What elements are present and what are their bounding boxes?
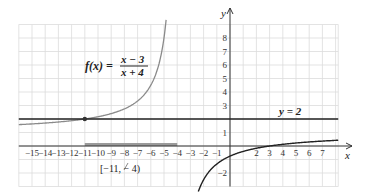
svg-text:7: 7 bbox=[223, 47, 228, 57]
svg-text:−5: −5 bbox=[159, 148, 169, 158]
svg-text:−3: −3 bbox=[186, 148, 196, 158]
svg-text:−12: −12 bbox=[65, 148, 79, 158]
svg-text:−8: −8 bbox=[120, 148, 130, 158]
svg-text:3: 3 bbox=[223, 101, 228, 111]
function-label: f(x) = x − 3 x + 4 bbox=[85, 53, 148, 78]
svg-text:−4: −4 bbox=[172, 148, 182, 158]
svg-text:−1: −1 bbox=[212, 148, 222, 158]
intersection-point bbox=[83, 117, 87, 121]
x-axis-label: x bbox=[344, 149, 350, 161]
svg-text:2: 2 bbox=[254, 148, 259, 158]
svg-text:−10: −10 bbox=[91, 148, 106, 158]
svg-text:−2: −2 bbox=[217, 168, 227, 178]
svg-text:−9: −9 bbox=[106, 148, 116, 158]
svg-text:−7: −7 bbox=[133, 148, 143, 158]
function-denominator: x + 4 bbox=[120, 66, 144, 78]
svg-text:−2: −2 bbox=[199, 148, 209, 158]
svg-text:6: 6 bbox=[307, 148, 312, 158]
interval-label: [−11, − 4) bbox=[100, 163, 140, 175]
svg-text:6: 6 bbox=[223, 60, 228, 70]
svg-text:7: 7 bbox=[320, 148, 325, 158]
svg-text:1: 1 bbox=[223, 128, 228, 138]
svg-text:8: 8 bbox=[223, 33, 228, 43]
function-graph: −15−14−13−12−11−10−9−8−7−6−5−4−3−2−12345… bbox=[0, 0, 373, 196]
svg-text:4: 4 bbox=[281, 148, 286, 158]
svg-text:−11: −11 bbox=[78, 148, 92, 158]
function-lhs: f(x) = bbox=[85, 59, 113, 73]
svg-text:5: 5 bbox=[294, 148, 299, 158]
function-numerator: x − 3 bbox=[120, 53, 145, 65]
svg-text:5: 5 bbox=[223, 74, 228, 84]
svg-text:3: 3 bbox=[267, 148, 272, 158]
svg-text:4: 4 bbox=[223, 87, 228, 97]
y-axis-label: y bbox=[220, 7, 226, 19]
svg-text:−6: −6 bbox=[146, 148, 156, 158]
asymptote-label: y = 2 bbox=[277, 105, 302, 117]
